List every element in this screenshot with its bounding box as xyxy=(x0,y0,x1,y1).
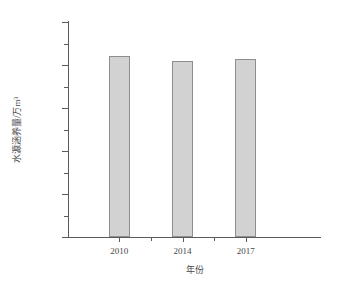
bar-chart: 水源涵养量/万m³ 010002000300040005000 20102014… xyxy=(0,0,346,304)
y-tick-label-wrap: 5000 xyxy=(0,22,68,23)
x-tick-minor xyxy=(151,238,152,241)
x-tick-major xyxy=(119,238,120,242)
bars-group xyxy=(68,22,321,237)
y-tick-label-wrap: 3000 xyxy=(0,108,68,109)
x-tick-label: 2010 xyxy=(89,245,149,258)
x-tick-minor xyxy=(214,238,215,241)
x-axis-title: 年份 xyxy=(68,264,321,277)
y-tick-label-wrap: 4000 xyxy=(0,65,68,66)
bar xyxy=(235,59,256,237)
y-tick-label-wrap: 0 xyxy=(0,237,68,238)
bar xyxy=(109,56,130,237)
y-axis-title: 水源涵养量/万m³ xyxy=(10,30,24,230)
x-tick-label: 2014 xyxy=(153,245,213,258)
x-axis-line xyxy=(68,237,321,238)
y-tick-label-wrap: 2000 xyxy=(0,151,68,152)
bar xyxy=(172,61,193,237)
y-tick-label-wrap: 1000 xyxy=(0,194,68,195)
x-tick-major xyxy=(246,238,247,242)
x-tick-label: 2017 xyxy=(216,245,276,258)
x-tick-major xyxy=(183,238,184,242)
